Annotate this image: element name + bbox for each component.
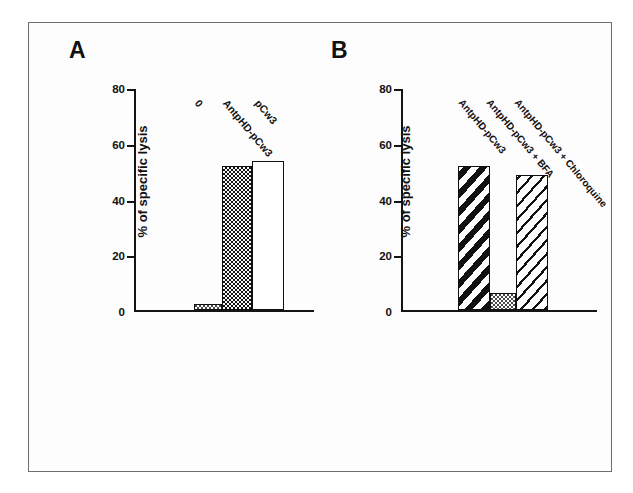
panel-b-ytick-label-60: 60 bbox=[379, 139, 392, 151]
panel-a-letter: A bbox=[69, 37, 86, 64]
panel-a-bar-1 bbox=[222, 166, 252, 310]
panel-a-y-axis-label: % of specific lysis bbox=[135, 112, 150, 252]
panel-b-y-axis-label: % of specific lysis bbox=[398, 112, 413, 252]
panel-b: B % of specific lysis 0 20 40 60 bbox=[301, 23, 613, 471]
panel-b-bar-2 bbox=[516, 175, 548, 310]
panel-a-bar-2 bbox=[252, 161, 284, 310]
panel-a-ytick-label-40: 40 bbox=[112, 195, 125, 207]
panel-b-bar-0 bbox=[458, 166, 490, 310]
panel-b-bar-1 bbox=[490, 293, 516, 310]
panel-b-ytick-label-0: 0 bbox=[386, 306, 392, 318]
panel-b-ytick-label-40: 40 bbox=[379, 195, 392, 207]
panel-b-ytick-label-80: 80 bbox=[379, 83, 392, 95]
panel-a-ytick-label-80: 80 bbox=[112, 83, 125, 95]
panel-a-ytick-label-20: 20 bbox=[112, 250, 125, 262]
panel-b-x-axis bbox=[401, 310, 597, 312]
panel-a-ytick-label-0: 0 bbox=[119, 306, 125, 318]
panel-a: A % of specific lysis 0 20 40 60 bbox=[29, 23, 319, 471]
panel-a-x-axis bbox=[134, 310, 314, 312]
panel-b-ytick-label-20: 20 bbox=[379, 250, 392, 262]
panel-a-plot-area: % of specific lysis 0 20 40 60 80 bbox=[134, 89, 294, 312]
panel-a-xtick-label-2: pCw3 bbox=[253, 97, 280, 126]
panel-b-letter: B bbox=[331, 37, 348, 64]
panel-a-xtick-label-0: 0 bbox=[193, 97, 206, 109]
panel-a-ytick-label-60: 60 bbox=[112, 139, 125, 151]
figure-frame: A % of specific lysis 0 20 40 60 bbox=[28, 22, 612, 472]
panel-b-plot-area: % of specific lysis 0 20 40 60 80 bbox=[401, 89, 576, 312]
panel-a-bar-0 bbox=[194, 304, 222, 310]
